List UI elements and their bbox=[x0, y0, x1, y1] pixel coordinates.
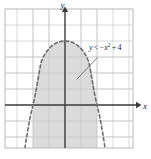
inequality-relation: < bbox=[94, 43, 99, 52]
inequality-lhs: y bbox=[88, 43, 93, 52]
inequality-constant: 4 bbox=[117, 43, 121, 52]
x-axis-arrow-icon bbox=[136, 102, 142, 108]
x-axis-label: x bbox=[142, 101, 147, 111]
inequality-graph-figure: y<−x2+4 y x bbox=[0, 0, 151, 159]
inequality-exponent: 2 bbox=[108, 42, 111, 48]
inequality-plus: + bbox=[112, 43, 117, 52]
parabola-inequality-chart: y<−x2+4 y x bbox=[0, 0, 151, 159]
y-axis-label: y bbox=[60, 0, 65, 10]
